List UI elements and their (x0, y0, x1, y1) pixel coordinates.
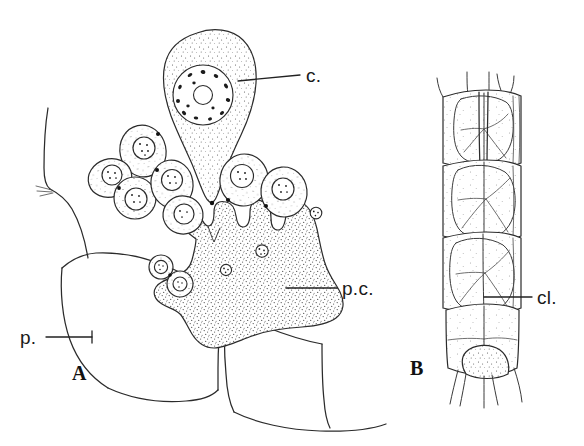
label-pc: p.c. (342, 278, 374, 299)
tube-segment (443, 232, 521, 314)
small-cell (167, 271, 193, 297)
small-cell (114, 177, 156, 219)
label-c: c. (306, 65, 321, 86)
label-cl: cl. (537, 287, 557, 308)
large-cell-nucleus (173, 65, 233, 125)
figure-illustration: c. p.c. p. A (0, 0, 584, 446)
tube-segment (443, 160, 521, 242)
panel-letter-a: A (72, 362, 87, 384)
label-p: p. (20, 327, 36, 348)
tube-segment (446, 304, 519, 379)
panel-letter-b: B (410, 357, 423, 379)
tube-segment (443, 90, 521, 169)
figure-root: c. p.c. p. A (0, 0, 584, 446)
